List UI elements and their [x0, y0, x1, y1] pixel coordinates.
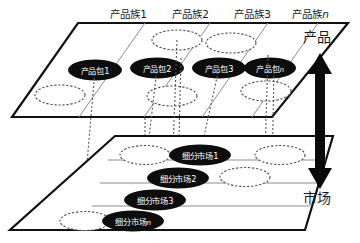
market-segment-node: [124, 190, 186, 211]
arrow-shaft: [315, 66, 325, 176]
layered-matrix-svg: [0, 0, 360, 243]
market-segment-node: [102, 211, 164, 232]
market-empty-slot: [220, 168, 270, 187]
market-empty-slot: [255, 146, 305, 165]
product-market-double-arrow: [308, 53, 332, 189]
product-empty-slot: [35, 85, 85, 105]
market-segment-node: [169, 145, 231, 166]
market-plane-group: [10, 136, 333, 232]
product-package-node: [244, 58, 296, 79]
product-empty-slot: [206, 33, 256, 53]
product-empty-slot: [241, 81, 291, 101]
diagram-canvas: 产品族1 产品族2 产品族3 产品族n 产品包1 产品包2 产品包3 产品包n …: [0, 0, 360, 243]
market-segment-node: [147, 168, 209, 189]
market-empty-slot: [120, 146, 170, 165]
